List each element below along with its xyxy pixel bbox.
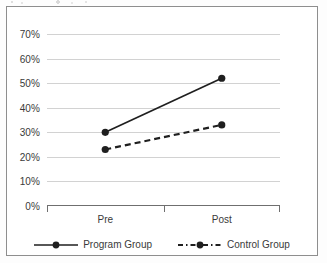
- legend-swatch-solid: [34, 240, 78, 250]
- legend-item-2[interactable]: Control Group: [178, 239, 290, 250]
- y-axis-tick-label: 70%: [20, 29, 40, 40]
- data-point-marker: [218, 75, 225, 82]
- legend-label: Control Group: [227, 239, 290, 250]
- data-point-marker: [102, 146, 109, 153]
- legend-marker: [53, 241, 60, 248]
- scan-artifact: [6, 0, 156, 5]
- plot-area: [47, 34, 280, 206]
- chart-legend: Program GroupControl Group: [7, 239, 317, 250]
- series-container: [47, 34, 280, 206]
- chart-frame: 70%60%50%40%30%20%10%0% PrePost Program …: [6, 6, 318, 256]
- y-axis-tick-label: 30%: [20, 127, 40, 138]
- legend-marker: [197, 241, 204, 248]
- y-axis-tick-label: 60%: [20, 53, 40, 64]
- legend-item-1[interactable]: Program Group: [34, 239, 152, 250]
- legend-swatch-dashed: [178, 240, 222, 250]
- y-axis-tick-label: 0%: [25, 201, 40, 212]
- series-line-2: [105, 125, 222, 150]
- chart-screenshot: 70%60%50%40%30%20%10%0% PrePost Program …: [0, 0, 327, 263]
- x-axis-tick-label: Post: [212, 214, 232, 225]
- x-axis-tick: [47, 206, 48, 212]
- y-axis-tick-label: 40%: [20, 102, 40, 113]
- legend-label: Program Group: [83, 239, 152, 250]
- data-point-marker: [218, 121, 225, 128]
- x-axis-tick: [164, 206, 165, 212]
- series-line-1: [105, 78, 222, 132]
- y-axis-tick-label: 50%: [20, 78, 40, 89]
- y-axis-tick-label: 10%: [20, 176, 40, 187]
- data-point-marker: [102, 129, 109, 136]
- y-axis-tick-label: 20%: [20, 151, 40, 162]
- x-axis-tick-label: Pre: [97, 214, 113, 225]
- x-axis-tick: [279, 206, 280, 212]
